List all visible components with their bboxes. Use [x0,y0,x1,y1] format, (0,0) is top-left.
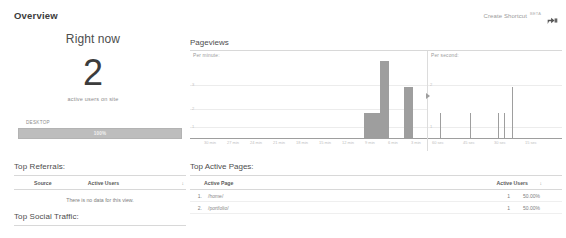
bar [512,87,513,139]
per-minute-label: Per minute: [193,53,220,58]
x-axis-tick-label: 27 min [227,140,239,145]
per-second-chart[interactable]: Per second: 2 1 60 sec45 sec30 sec15 sec [428,51,562,151]
create-shortcut-control[interactable]: Create Shortcut BETA [484,11,558,20]
top-active-pages-table-header: Active Page Active Users ↓ [190,176,562,190]
active-users-caption: active users on site [0,96,186,102]
bar [504,113,505,139]
bar [440,113,441,139]
active-page-path[interactable]: /home/ [208,193,223,199]
active-users-percent-cell: 50.00% [523,193,540,199]
active-users-percent-cell: 50.00% [523,205,540,211]
x-axis-tick-label: 45 sec [463,140,475,145]
x-axis-tick-label: 21 min [273,140,285,145]
create-shortcut-label[interactable]: Create Shortcut [484,13,528,19]
table-row[interactable]: 2./portfolio/150.00% [190,202,562,214]
top-active-pages-title: Top Active Pages: [190,162,562,171]
share-icon[interactable] [547,11,558,20]
per-minute-x-axis-labels: 30 min27 min24 min21 min18 min15 min12 m… [190,140,427,150]
column-header-active-page: Active Page [204,180,233,186]
active-users-count-cell: 1 [507,205,510,211]
bar [498,113,499,139]
x-axis-tick-label: 24 min [250,140,262,145]
pageviews-charts: Per minute: 3 2 1 30 min27 min24 min21 m… [190,51,562,151]
x-axis-tick-label: 12 min [342,140,354,145]
x-axis-tick-label: 30 min [204,140,216,145]
active-users-count-cell: 1 [507,193,510,199]
column-header-source: Source [34,180,52,186]
per-minute-plot-area [190,61,427,139]
sort-descending-icon[interactable]: ↓ [540,180,543,186]
top-active-pages-panel: Top Active Pages: Active Page Active Use… [190,162,562,214]
per-second-plot-area [428,61,562,139]
x-axis-tick-label: 30 sec [494,140,506,145]
device-segment-header: DESKTOP [18,120,184,125]
per-second-label: Per second: [431,53,459,58]
bar [470,113,471,139]
top-referrals-table-header: Source Active Users ↓ [14,176,186,190]
row-index: 1. [190,193,202,199]
realtime-overview-page: Overview Create Shortcut BETA Right now … [0,0,566,238]
per-second-x-axis-labels: 60 sec45 sec30 sec15 sec [428,140,562,150]
top-referrals-empty-message: There is no data for this view. [14,190,186,211]
device-segment-label: DESKTOP [26,120,50,125]
active-page-path[interactable]: /portfolio/ [208,205,229,211]
x-axis-tick-label: 15 sec [525,140,537,145]
page-header: Overview Create Shortcut BETA [0,0,566,26]
top-social-traffic-title: Top Social Traffic: [14,212,186,221]
table-row[interactable]: 1./home/150.00% [190,190,562,202]
x-axis-tick-label: 60 sec [432,140,444,145]
x-axis-tick-label: 3 min [411,140,421,145]
device-share-bar[interactable]: 100% [18,128,182,139]
top-social-traffic-divider [14,225,186,226]
sort-descending-icon[interactable]: ↓ [182,180,185,186]
column-header-active-users: Active Users [88,180,119,186]
top-social-traffic-panel: Top Social Traffic: [14,212,186,226]
bar [380,61,389,139]
monitor-icon [18,120,23,125]
row-index: 2. [190,205,202,211]
device-share-percent: 100% [94,131,107,136]
x-axis-tick-label: 6 min [388,140,398,145]
x-axis-tick-label: 9 min [365,140,375,145]
pageviews-panel: Pageviews Per minute: 3 2 1 30 min27 min… [190,38,562,156]
right-now-title: Right now [0,32,186,46]
column-header-active-users: Active Users [497,180,528,186]
bar [404,87,413,139]
beta-badge: BETA [530,11,541,16]
active-users-count: 2 [0,52,186,94]
top-active-pages-rows: 1./home/150.00%2./portfolio/150.00% [190,190,562,214]
x-axis-tick-label: 15 min [319,140,331,145]
page-title: Overview [14,10,58,21]
x-axis-tick-label: 18 min [296,140,308,145]
right-now-panel: Right now 2 active users on site [0,32,186,102]
per-minute-chart[interactable]: Per minute: 3 2 1 30 min27 min24 min21 m… [190,51,428,151]
top-referrals-title: Top Referrals: [14,162,186,171]
device-segment-panel: DESKTOP 100% [18,120,184,139]
pageviews-title: Pageviews [190,38,562,47]
top-referrals-panel: Top Referrals: Source Active Users ↓ The… [14,162,186,211]
